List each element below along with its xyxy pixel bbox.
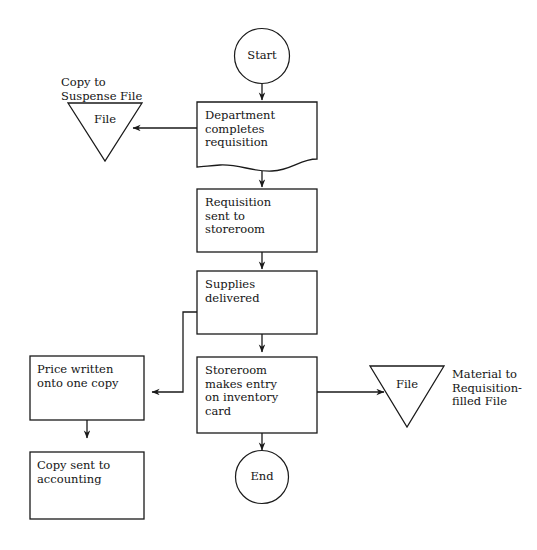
requisition-filled-annotation: Material to Requisition- filled File <box>452 368 537 409</box>
node-supplies-delivered[interactable] <box>197 271 317 334</box>
suspense-file-annotation: Copy to Suspense File <box>61 76 181 103</box>
node-requisition-sent-to-storeroom[interactable] <box>197 189 317 252</box>
node-start[interactable] <box>235 29 290 84</box>
node-end[interactable] <box>236 451 289 504</box>
node-requisition-filled-file[interactable] <box>370 366 444 427</box>
node-storeroom-makes-entry[interactable] <box>197 357 317 433</box>
node-copy-sent-to-accounting[interactable] <box>30 452 144 519</box>
node-suspense-file[interactable] <box>68 103 142 161</box>
node-department-completes-requisition[interactable] <box>197 102 317 171</box>
node-price-written[interactable] <box>30 356 144 420</box>
edge-supplies-to-price-written <box>152 312 197 392</box>
